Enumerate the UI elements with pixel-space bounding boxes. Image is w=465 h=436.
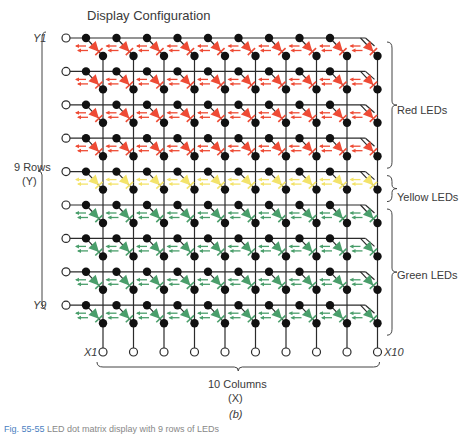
row-terminal [62,34,70,42]
column-node [251,185,259,193]
light-arrowhead [352,282,356,286]
light-arrowhead [136,77,140,81]
light-arrowhead [108,115,112,119]
light-arrowhead [319,278,323,282]
light-arrowhead [258,311,262,315]
light-arrowhead [138,115,142,119]
column-node [221,252,229,260]
column-node [160,185,168,193]
row-node [143,167,151,175]
light-arrowhead [167,178,171,182]
light-arrowhead [75,178,79,182]
column-node [160,252,168,260]
column-node [343,252,351,260]
column-node [282,52,290,60]
row-first-label: Y1 [33,32,46,44]
light-arrowhead [230,282,234,286]
light-arrowhead [199,249,203,253]
row-node [173,34,181,42]
column-node [190,185,198,193]
light-arrowhead [169,216,173,220]
light-arrowhead [199,49,203,53]
row-node [295,101,303,109]
column-node [160,286,168,294]
light-arrowhead [321,249,325,253]
light-arrowhead [321,282,325,286]
light-arrowhead [352,82,356,86]
row-node [112,101,120,109]
light-arrowhead [352,149,356,153]
light-arrowhead [228,211,232,215]
light-arrowhead [228,244,232,248]
row-node [82,34,90,42]
light-arrowhead [321,49,325,53]
row-node [143,234,151,242]
row-node [82,134,90,142]
row-node [295,134,303,142]
light-arrowhead [169,82,173,86]
column-node [373,319,381,327]
row-node [143,134,151,142]
light-arrowhead [136,178,140,182]
light-arrowhead [230,82,234,86]
row-node [326,268,334,276]
row-node [295,301,303,309]
brace-yellow [387,176,397,202]
light-arrowhead [108,216,112,220]
row-node [265,34,273,42]
row-node [234,301,242,309]
row-node [204,167,212,175]
light-arrowhead [136,244,140,248]
row-node [204,34,212,42]
column-node [99,52,107,60]
col-first-label: X1 [83,346,97,358]
column-node [343,185,351,193]
light-arrowhead [352,49,356,53]
light-arrowhead [228,77,232,81]
light-arrowhead [106,178,110,182]
light-arrowhead [169,316,173,320]
figure-caption: Fig. 55-55 LED dot matrix display with 9… [4,424,219,434]
column-node [129,185,137,193]
row-node [234,201,242,209]
group-label-yellow: Yellow LEDs [397,191,459,203]
light-arrowhead [138,82,142,86]
light-arrowhead [75,144,79,148]
column-node [160,119,168,127]
row-node [295,167,303,175]
row-node [204,67,212,75]
row-node [265,201,273,209]
light-arrowhead [138,316,142,320]
row-node [82,167,90,175]
light-arrowhead [260,82,264,86]
light-arrowhead [350,244,354,248]
brace-green [387,209,397,335]
row-node [234,167,242,175]
row-node [265,234,273,242]
light-arrowhead [199,182,203,186]
light-arrowhead [197,144,201,148]
column-terminal [191,348,199,356]
light-arrowhead [352,216,356,220]
light-arrowhead [319,244,323,248]
light-arrowhead [75,244,79,248]
light-arrowhead [291,149,295,153]
row-node [204,301,212,309]
light-arrowhead [230,182,234,186]
column-node [312,286,320,294]
light-arrowhead [289,211,293,215]
led-grid [62,34,382,356]
light-arrowhead [108,249,112,253]
column-node [373,85,381,93]
column-node [99,219,107,227]
light-arrowhead [75,77,79,81]
column-node [190,219,198,227]
light-arrowhead [291,316,295,320]
column-node [160,152,168,160]
light-arrowhead [230,149,234,153]
column-node [99,319,107,327]
light-arrowhead [199,216,203,220]
light-arrowhead [169,249,173,253]
row-node [173,167,181,175]
light-arrowhead [136,111,140,115]
